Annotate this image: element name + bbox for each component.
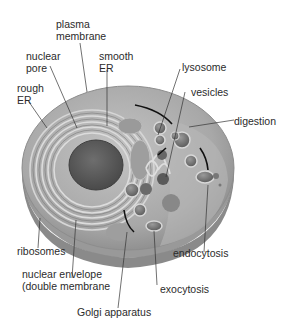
label-ribosomes: ribosomes (17, 245, 65, 257)
label-rough-er: rough ER (17, 82, 44, 106)
label-exocytosis: exocytosis (160, 283, 209, 295)
label-nuclear-pore: nuclear pore (26, 50, 60, 74)
label-golgi-apparatus: Golgi apparatus (77, 306, 151, 318)
nucleus (69, 140, 123, 190)
label-digestion: digestion (234, 115, 276, 127)
label-endocytosis: endocytosis (173, 247, 228, 259)
label-plasma-membrane: plasma membrane (56, 18, 106, 42)
label-vesicles: vesicles (191, 86, 228, 98)
label-nuclear-envelope: nuclear envelope (double membrane (22, 268, 110, 292)
label-lysosome: lysosome (182, 61, 226, 73)
label-smooth-er: smooth ER (99, 50, 133, 74)
